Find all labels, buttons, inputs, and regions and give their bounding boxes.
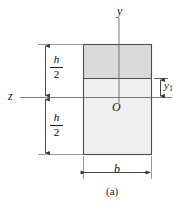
upper-half-depth-label: h 2 [50,54,63,80]
lower-half-depth-label: h 2 [50,112,63,138]
width-label: b [114,163,120,175]
figure-container: y z O h 2 h 2 y1 b (a) [0,0,185,206]
lower-half-denominator: 2 [50,127,63,139]
lower-region [84,79,152,155]
y1-subscript: 1 [169,84,173,93]
figure-caption: (a) [106,186,118,197]
upper-half-denominator: 2 [50,69,63,81]
lower-half-numerator: h [50,112,63,124]
upper-half-numerator: h [50,54,63,66]
z-axis-label: z [8,90,13,102]
origin-label: O [112,101,121,113]
y1-offset-label: y1 [164,80,173,93]
cross-section-drawing [0,0,185,206]
upper-shaded-region [84,45,152,79]
y-axis-label: y [117,5,122,17]
